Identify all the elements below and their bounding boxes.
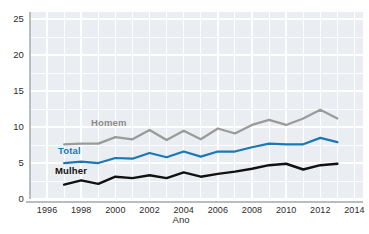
x-tick-label-2008: 2008 — [235, 205, 269, 215]
series-label-total: Total — [58, 145, 81, 156]
x-tick-label-1996: 1996 — [30, 205, 64, 215]
x-tick-label-2014: 2014 — [337, 205, 369, 215]
y-tick-label-20: 20 — [2, 49, 24, 60]
series-label-mulher: Mulher — [55, 165, 87, 176]
series-label-homem: Homem — [91, 117, 127, 128]
x-tick-label-1998: 1998 — [64, 205, 98, 215]
x-axis-title: Ano — [151, 214, 211, 225]
y-tick-label-10: 10 — [2, 121, 24, 132]
y-tick-label-25: 25 — [2, 13, 24, 24]
x-tick-label-2010: 2010 — [269, 205, 303, 215]
y-tick-label-0: 0 — [2, 193, 24, 204]
x-tick-label-2000: 2000 — [98, 205, 132, 215]
x-tick-label-2012: 2012 — [303, 205, 337, 215]
y-tick-label-15: 15 — [2, 85, 24, 96]
y-tick-label-5: 5 — [2, 157, 24, 168]
